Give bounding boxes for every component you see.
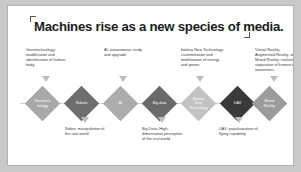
connector-triangle-bottom-icon <box>235 117 243 123</box>
caption-bottom-big-data: Big Data: High-dimensional perception of… <box>142 126 186 141</box>
connector-triangle-top-icon <box>42 76 50 82</box>
caption-top-genetechnology: Genetechnology: modification and identif… <box>26 47 68 67</box>
connector-triangle-bottom-icon <box>158 117 166 123</box>
caption-bottom-uav: UAV: popularization of flying capability <box>219 126 263 136</box>
caption-top-ai: AI: autonomous study and upgrade <box>104 47 146 57</box>
caption-top-mixed-reality: Virtual Reality, Augmented Reality, and … <box>255 47 294 72</box>
caption-top-battery: battery New Technology: customization an… <box>181 47 224 67</box>
node-genetechnology[interactable] <box>25 86 60 121</box>
slide-canvas: Machines rise as a new species of media.… <box>7 5 294 166</box>
node-robots[interactable] <box>64 86 99 121</box>
node-mixed-reality[interactable] <box>252 86 287 121</box>
node-big-data[interactable] <box>142 86 177 121</box>
node-ai[interactable] <box>103 86 138 121</box>
connector-triangle-top-icon <box>196 76 204 82</box>
node-battery-new-technology[interactable] <box>181 86 216 121</box>
connector-triangle-bottom-icon <box>81 117 89 123</box>
title-block: Machines rise as a new species of media. <box>26 16 276 40</box>
connector-triangle-top-icon <box>270 76 278 82</box>
caption-bottom-robot: Robot: manipulation of the real world <box>65 126 109 136</box>
node-uav[interactable] <box>220 86 255 121</box>
page-title: Machines rise as a new species of media. <box>34 19 283 34</box>
connector-triangle-top-icon <box>119 76 127 82</box>
